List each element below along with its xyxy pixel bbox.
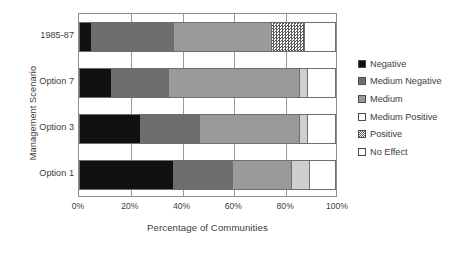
bar-stack bbox=[79, 22, 336, 52]
bar-segment-medium bbox=[233, 160, 292, 190]
bar-segment-medium bbox=[200, 114, 300, 144]
legend-swatch-icon bbox=[358, 113, 366, 121]
legend-item-positive[interactable]: Positive bbox=[358, 125, 462, 143]
legend-item-medium-negative[interactable]: Medium Negative bbox=[358, 73, 462, 91]
bar-stack bbox=[79, 114, 336, 144]
x-axis-tick-100: 100% bbox=[317, 201, 357, 211]
legend-swatch-icon bbox=[358, 148, 366, 156]
bar-segment-medium-negative bbox=[141, 114, 200, 144]
bar-segment-negative bbox=[79, 22, 92, 52]
legend-swatch-icon bbox=[358, 130, 366, 138]
bar-segment-negative bbox=[79, 68, 112, 98]
bar-segment-medium-positive bbox=[292, 160, 310, 190]
bar-segment-medium-negative bbox=[92, 22, 174, 52]
bar-segment-medium bbox=[169, 68, 300, 98]
bars-layer bbox=[79, 14, 336, 196]
legend-swatch-icon bbox=[358, 95, 366, 103]
bar-segment-no-effect bbox=[305, 22, 336, 52]
legend-label: Medium Positive bbox=[370, 112, 437, 122]
bar-segment-no-effect bbox=[310, 160, 336, 190]
bar-segment-medium-positive bbox=[300, 114, 308, 144]
y-axis-label-option-1: Option 1 bbox=[2, 168, 74, 178]
bar-stack bbox=[79, 160, 336, 190]
x-axis-tick-40: 40% bbox=[162, 201, 202, 211]
legend-swatch-icon bbox=[358, 60, 366, 68]
bar-segment-medium bbox=[174, 22, 272, 52]
bar-segment-medium-negative bbox=[112, 68, 169, 98]
y-axis-label-option-3: Option 3 bbox=[2, 122, 74, 132]
legend-label: Medium bbox=[370, 94, 403, 104]
bar-segment-negative bbox=[79, 160, 174, 190]
legend-item-medium[interactable]: Medium bbox=[358, 90, 462, 108]
bar-stack bbox=[79, 68, 336, 98]
x-axis-tick-0: 0% bbox=[58, 201, 98, 211]
bar-segment-positive bbox=[272, 22, 305, 52]
bar-segment-medium-positive bbox=[300, 68, 308, 98]
legend-item-medium-positive[interactable]: Medium Positive bbox=[358, 108, 462, 126]
legend-item-no-effect[interactable]: No Effect bbox=[358, 143, 462, 161]
legend-swatch-icon bbox=[358, 77, 366, 85]
legend-label: Negative bbox=[370, 59, 406, 69]
x-axis-tick-20: 20% bbox=[110, 201, 150, 211]
bar-segment-medium-negative bbox=[174, 160, 233, 190]
legend-label: Medium Negative bbox=[370, 76, 442, 86]
y-axis-label-option-7: Option 7 bbox=[2, 76, 74, 86]
x-axis-title: Percentage of Communities bbox=[78, 222, 337, 233]
bar-segment-no-effect bbox=[308, 68, 336, 98]
y-axis-label-1985-87: 1985-87 bbox=[2, 30, 74, 40]
chart-legend: NegativeMedium NegativeMediumMedium Posi… bbox=[358, 55, 462, 161]
x-axis-tick-80: 80% bbox=[265, 201, 305, 211]
legend-label: No Effect bbox=[370, 147, 408, 157]
legend-item-negative[interactable]: Negative bbox=[358, 55, 462, 73]
x-axis-tick-60: 60% bbox=[213, 201, 253, 211]
bar-segment-negative bbox=[79, 114, 141, 144]
legend-label: Positive bbox=[370, 129, 402, 139]
stacked-bar-chart: Management Scenario 1985-87Option 7Optio… bbox=[0, 0, 464, 253]
bar-segment-no-effect bbox=[308, 114, 336, 144]
plot-area bbox=[78, 13, 337, 197]
y-axis-tick-labels: 1985-87Option 7Option 3Option 1 bbox=[0, 0, 74, 253]
